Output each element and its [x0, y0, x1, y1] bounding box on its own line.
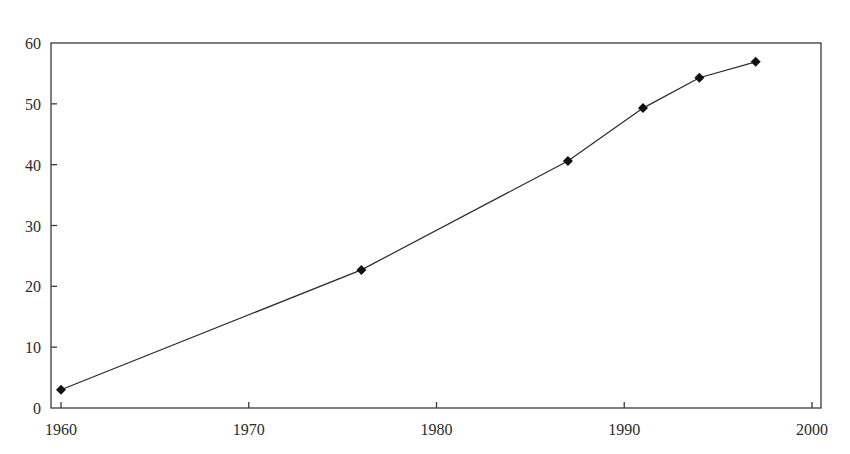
plot-border: [51, 43, 821, 408]
y-tick-label: 50: [25, 96, 41, 113]
diamond-marker-icon: [694, 73, 704, 83]
plot-frame: [51, 43, 821, 408]
y-axis: 0102030405060: [25, 35, 57, 417]
diamond-marker-icon: [638, 103, 648, 113]
x-tick-label: 1960: [45, 421, 77, 438]
data-series: [56, 57, 761, 395]
diamond-marker-icon: [56, 385, 66, 395]
line-chart: 19601970198019902000 0102030405060: [0, 0, 850, 454]
y-tick-label: 10: [25, 339, 41, 356]
diamond-marker-icon: [751, 57, 761, 67]
x-tick-label: 1970: [233, 421, 265, 438]
x-tick-label: 1990: [608, 421, 640, 438]
diamond-marker-icon: [563, 156, 573, 166]
y-tick-label: 0: [33, 400, 41, 417]
y-tick-label: 30: [25, 218, 41, 235]
series-line: [61, 62, 756, 390]
diamond-marker-icon: [356, 265, 366, 275]
y-tick-label: 60: [25, 35, 41, 52]
x-tick-label: 2000: [796, 421, 828, 438]
y-tick-label: 20: [25, 278, 41, 295]
y-tick-label: 40: [25, 157, 41, 174]
x-tick-label: 1980: [421, 421, 453, 438]
